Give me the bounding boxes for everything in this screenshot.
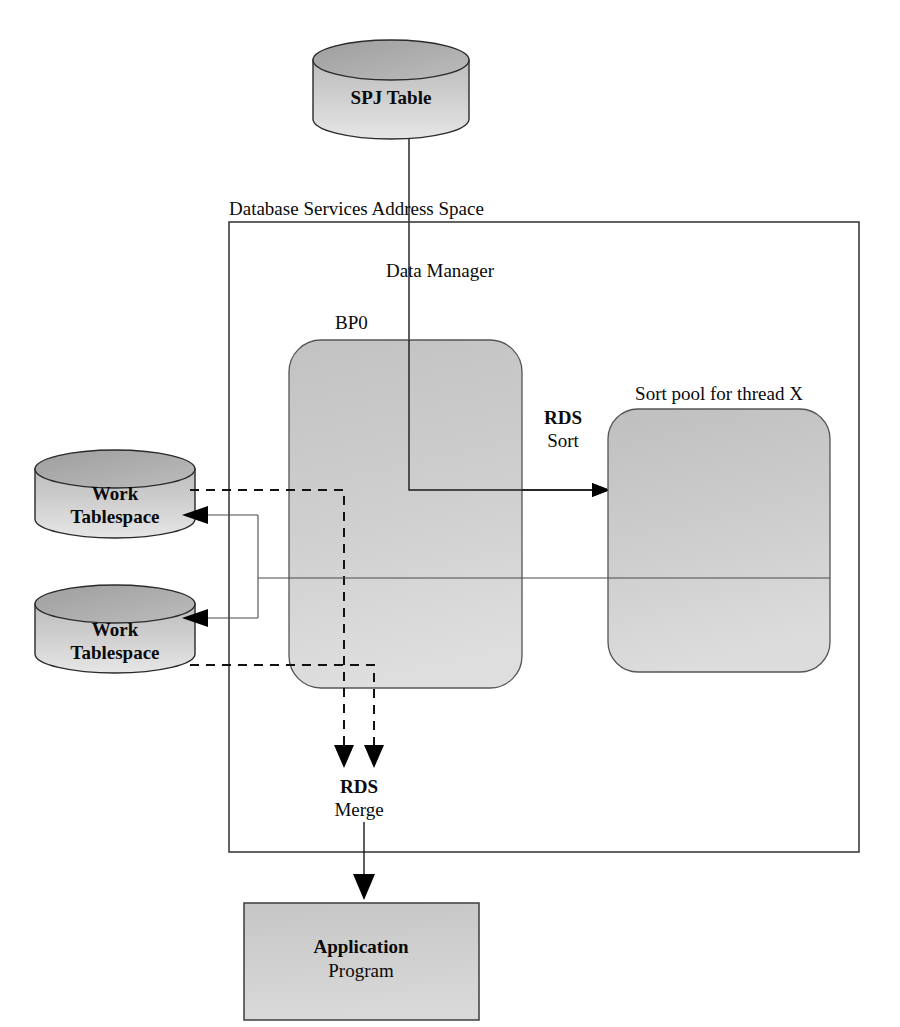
rds-sort-label-line2: Sort — [547, 430, 579, 451]
edge-label-rds-sort: RDS Sort — [544, 407, 582, 451]
node-application-program[interactable]: Application Program — [244, 903, 479, 1020]
buffer-pool-rect — [289, 340, 522, 688]
spj-line-overlay-arrowhead — [592, 483, 610, 497]
db2-sort-processing-diagram: SPJ Table Database Services Address Spac… — [0, 0, 900, 1027]
merge-to-application-arrowhead — [353, 874, 375, 900]
node-work-tablespace-2[interactable]: Work Tablespace — [35, 585, 195, 673]
work-tablespace-1-label-line2: Tablespace — [70, 506, 159, 527]
node-work-tablespace-1[interactable]: Work Tablespace — [35, 450, 195, 538]
rds-sort-label-line1: RDS — [544, 407, 582, 428]
work-tablespace-2-label-line2: Tablespace — [70, 642, 159, 663]
application-program-label-line1: Application — [313, 936, 408, 957]
application-program-label-line2: Program — [328, 960, 394, 981]
node-data-manager[interactable]: Data Manager — [386, 260, 495, 281]
work-tablespace-2-label-line1: Work — [92, 619, 139, 640]
data-manager-label: Data Manager — [386, 260, 495, 281]
sort-pool-rect — [608, 409, 830, 672]
node-spj-table[interactable]: SPJ Table — [313, 40, 469, 139]
diagram-canvas: SPJ Table Database Services Address Spac… — [0, 0, 900, 1027]
edge-label-rds-merge: RDS Merge — [334, 776, 383, 820]
spj-table-cylinder-top — [313, 40, 469, 80]
outer-box-label: Database Services Address Space — [229, 198, 484, 219]
sort-pool-label: Sort pool for thread X — [635, 383, 803, 404]
spj-table-label: SPJ Table — [351, 87, 432, 108]
rds-merge-label-line1: RDS — [340, 776, 378, 797]
buffer-pool-label: BP0 — [335, 312, 368, 333]
worktablespace1-dashed-arrowhead — [334, 745, 354, 768]
node-sort-pool[interactable]: Sort pool for thread X — [608, 383, 830, 672]
node-buffer-pool[interactable]: BP0 — [289, 312, 522, 688]
worktablespace2-dashed-arrowhead — [364, 745, 384, 768]
rds-merge-label-line2: Merge — [334, 799, 383, 820]
work-tablespace-2-top — [35, 585, 195, 623]
work-tablespace-1-label-line1: Work — [92, 483, 139, 504]
edge-merge-to-application — [353, 822, 375, 900]
